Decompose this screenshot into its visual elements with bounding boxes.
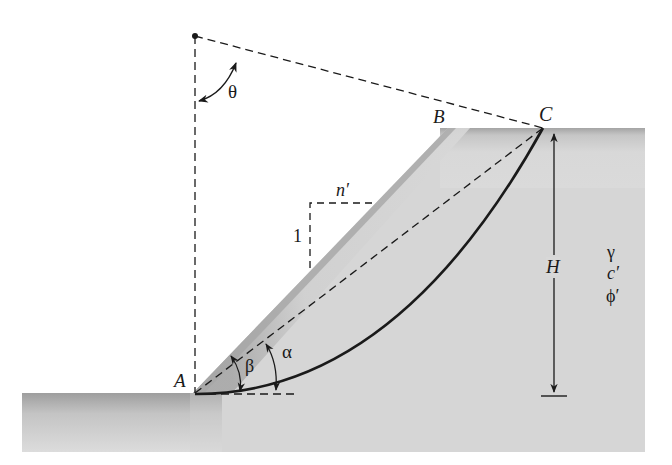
theta-label: θ <box>228 82 237 101</box>
slope-diagram <box>0 0 672 465</box>
point-b-label: B <box>433 107 445 126</box>
friction-angle-label: ϕ′ <box>606 287 619 305</box>
slope-horizontal-label: n′ <box>336 181 349 199</box>
radius-line <box>195 36 543 128</box>
point-c-label: C <box>539 104 552 124</box>
beta-label: β <box>245 357 254 375</box>
alpha-label: α <box>282 342 292 361</box>
unit-weight-label: γ <box>607 243 615 261</box>
slope-vertical-label: 1 <box>293 227 302 245</box>
point-a-label: A <box>174 371 186 390</box>
soil-mass <box>22 128 645 452</box>
cohesion-label: c′ <box>607 264 619 282</box>
height-label: H <box>546 257 560 276</box>
